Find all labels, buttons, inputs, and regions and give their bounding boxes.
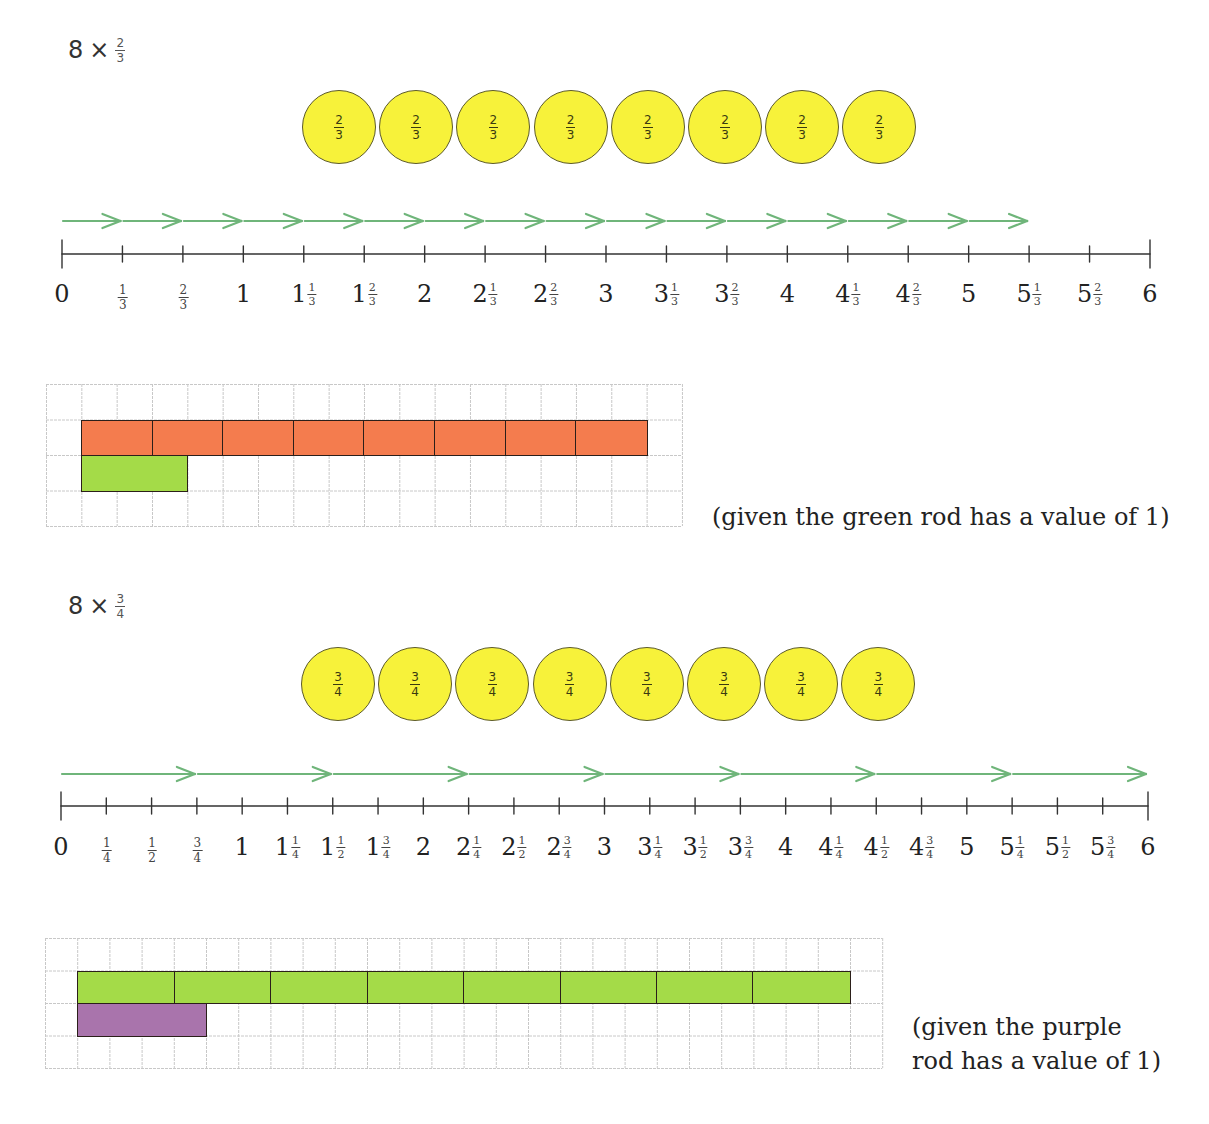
purple-unit-rod — [77, 1003, 207, 1037]
tick-label: 414 — [818, 833, 843, 861]
fraction: 34 — [874, 671, 884, 698]
expression-whole: 8 — [68, 592, 83, 620]
rod-segment — [435, 421, 506, 456]
fraction: 14 — [472, 835, 481, 860]
tick-label: 4 — [778, 833, 793, 861]
fraction-counter: 34 — [687, 647, 761, 721]
fraction: 23 — [797, 114, 807, 141]
tick-label: 5 — [959, 833, 974, 861]
tick-label: 2 — [416, 833, 431, 861]
tick-label: 512 — [1045, 833, 1070, 861]
rod-note-line-1: (given the purple — [912, 1010, 1161, 1044]
fraction: 34 — [565, 671, 575, 698]
rod-segment — [175, 972, 271, 1004]
fraction-counter: 34 — [610, 647, 684, 721]
fraction-counter: 23 — [456, 90, 530, 164]
expression-operator: × — [89, 592, 109, 620]
fraction: 13 — [307, 282, 316, 307]
fraction: 12 — [1061, 835, 1070, 860]
tick-label: 223 — [533, 280, 558, 308]
expression-8-times-two-thirds: 8 × 2 3 — [68, 36, 125, 64]
tick-label: 6 — [1142, 280, 1157, 308]
fraction: 34 — [488, 671, 498, 698]
rod-segment — [153, 421, 224, 456]
expression-whole: 8 — [68, 36, 83, 64]
tick-label: 3 — [597, 833, 612, 861]
fraction: 34 — [193, 837, 203, 864]
rod-segment — [368, 972, 464, 1004]
tick-label: 34 — [192, 837, 203, 864]
fraction-counter: 34 — [841, 647, 915, 721]
expression-fraction: 2 3 — [115, 37, 125, 64]
fraction-counter: 23 — [765, 90, 839, 164]
expression-fraction: 3 4 — [115, 593, 125, 620]
fraction: 14 — [102, 837, 112, 864]
fraction: 14 — [291, 835, 300, 860]
fraction: 14 — [1016, 835, 1025, 860]
fraction: 12 — [699, 835, 708, 860]
rod-note-green: (given the green rod has a value of 1) — [712, 500, 1170, 534]
tick-label: 3 — [598, 280, 613, 308]
fraction: 23 — [368, 282, 377, 307]
fraction: 12 — [880, 835, 889, 860]
tick-label: 334 — [728, 833, 753, 861]
tick-label: 0 — [54, 280, 69, 308]
fraction: 34 — [333, 671, 343, 698]
tick-label: 4 — [780, 280, 795, 308]
fraction: 14 — [653, 835, 662, 860]
expression-operator: × — [89, 36, 109, 64]
rod-note-purple: (given the purple rod has a value of 1) — [912, 1010, 1161, 1078]
tick-label: 212 — [501, 833, 526, 861]
number-line-quarters — [0, 755, 1209, 835]
fraction-counter: 34 — [533, 647, 607, 721]
tick-label: 0 — [53, 833, 68, 861]
rod-segment — [82, 421, 153, 456]
rod-segment — [657, 972, 753, 1004]
fraction: 23 — [643, 114, 653, 141]
fraction: 12 — [336, 835, 345, 860]
tick-label: 314 — [637, 833, 662, 861]
tick-label: 234 — [547, 833, 572, 861]
orange-rod-segmented — [81, 420, 647, 457]
fraction-counter: 34 — [764, 647, 838, 721]
tick-label: 134 — [365, 833, 390, 861]
fraction: 13 — [1033, 282, 1042, 307]
fraction: 23 — [875, 114, 885, 141]
tick-label: 5 — [961, 280, 976, 308]
fraction: 23 — [731, 282, 740, 307]
rod-segment — [561, 972, 657, 1004]
tick-label: 513 — [1016, 280, 1041, 308]
tick-label: 214 — [456, 833, 481, 861]
rod-segment — [506, 421, 577, 456]
fraction: 12 — [147, 837, 157, 864]
rod-segment — [294, 421, 365, 456]
tick-label: 123 — [352, 280, 377, 308]
tick-label: 323 — [714, 280, 739, 308]
fraction: 23 — [1093, 282, 1102, 307]
fraction-counter: 23 — [688, 90, 762, 164]
tick-label: 114 — [275, 833, 300, 861]
tick-label: 1 — [236, 280, 251, 308]
fraction: 34 — [1106, 835, 1115, 860]
tick-label: 434 — [909, 833, 934, 861]
tick-label: 213 — [472, 280, 497, 308]
tick-label: 312 — [682, 833, 707, 861]
tick-label: 6 — [1140, 833, 1155, 861]
fraction-counter: 34 — [455, 647, 529, 721]
rod-segment — [753, 972, 849, 1004]
tick-label: 112 — [320, 833, 345, 861]
fraction-counter: 23 — [611, 90, 685, 164]
tick-label: 113 — [291, 280, 316, 308]
rod-segment — [271, 972, 367, 1004]
tick-label: 23 — [178, 284, 189, 311]
fraction-counter: 23 — [534, 90, 608, 164]
fraction: 12 — [518, 835, 527, 860]
fraction: 23 — [411, 114, 421, 141]
tick-label: 412 — [864, 833, 889, 861]
fraction: 13 — [670, 282, 679, 307]
tick-label: 514 — [999, 833, 1024, 861]
fraction-counter: 34 — [301, 647, 375, 721]
fraction: 23 — [720, 114, 730, 141]
rod-note-line-2: rod has a value of 1) — [912, 1044, 1161, 1078]
green-rod-segmented — [77, 971, 851, 1005]
